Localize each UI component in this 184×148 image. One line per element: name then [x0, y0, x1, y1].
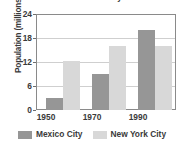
- legend-label-mexico-city: Mexico City: [36, 130, 83, 139]
- y-tick-label-12: 12: [10, 58, 32, 66]
- legend-swatch-new-york-city: [93, 131, 107, 139]
- bar-new-york-city-1990: [155, 46, 172, 110]
- x-tick-label-1990: 1990: [118, 113, 158, 122]
- x-tick-label-1970: 1970: [72, 113, 112, 122]
- y-tick-label-24: 24: [10, 10, 32, 18]
- bar-mexico-city-1970: [92, 74, 109, 110]
- legend-item-new-york-city: New York City: [93, 130, 167, 139]
- bar-new-york-city-1950: [63, 61, 80, 110]
- legend-label-new-york-city: New York City: [111, 130, 167, 139]
- y-tick-label-6: 6: [10, 82, 32, 90]
- x-tick-label-1950: 1950: [26, 113, 66, 122]
- bars-layer: [37, 15, 175, 110]
- bar-mexico-city-1950: [46, 98, 63, 110]
- legend-item-mexico-city: Mexico City: [18, 130, 83, 139]
- legend-swatch-mexico-city: [18, 131, 32, 139]
- y-tick-mark-0: [33, 110, 36, 111]
- chart-legend: Mexico City New York City: [0, 130, 184, 139]
- y-tick-label-18: 18: [10, 34, 32, 42]
- chart-title: and Mexico City: [0, 0, 184, 2]
- bar-new-york-city-1970: [109, 46, 126, 110]
- bar-mexico-city-1990: [138, 30, 155, 110]
- bar-chart: and Mexico City Population (millions) 24…: [0, 0, 184, 148]
